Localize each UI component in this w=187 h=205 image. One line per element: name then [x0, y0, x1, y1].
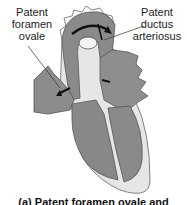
- pulmonary-trunk: [100, 50, 148, 110]
- label-patent-foramen-ovale: Patent foramen ovale: [4, 6, 60, 42]
- ductus-opening: [79, 37, 97, 49]
- label-patent-ductus-arteriosus: Patent ductus arteriosus: [128, 6, 186, 42]
- figure-caption: (a) Patent foramen ovale and: [0, 196, 187, 205]
